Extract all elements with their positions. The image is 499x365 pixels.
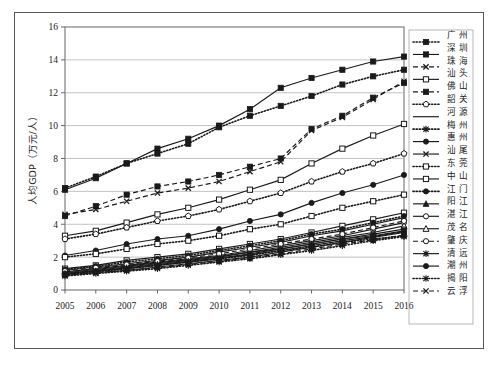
marker-open-circle	[423, 214, 428, 219]
legend-label-char: 阳	[447, 196, 456, 206]
marker-open-square	[186, 205, 191, 210]
legend-label-char: 山	[459, 171, 468, 181]
marker-open-square	[247, 187, 252, 192]
marker-open-square	[423, 164, 428, 169]
legend-item-梅州[interactable]	[413, 126, 439, 133]
legend-label-char: 湛	[447, 209, 456, 219]
legend-label-char: 揭	[447, 272, 456, 283]
y-axis-title: 人均GDP（万元/人）	[27, 111, 38, 205]
svg-text:人均GDP（万元/人）: 人均GDP（万元/人）	[27, 111, 38, 205]
marker-filled-square	[124, 161, 129, 166]
legend-item-惠州[interactable]	[413, 139, 439, 144]
legend-label-char: 惠	[447, 131, 456, 142]
legend-item-云浮[interactable]	[413, 288, 439, 293]
legend-item-汕头[interactable]	[413, 77, 439, 82]
marker-filled-square	[371, 95, 376, 100]
legend-item-肇庆[interactable]	[413, 239, 439, 244]
legend-item-中山[interactable]	[413, 176, 439, 181]
marker-filled-square	[423, 89, 428, 94]
marker-filled-circle	[423, 264, 428, 269]
marker-open-square	[247, 227, 252, 232]
marker-filled-square	[62, 213, 67, 218]
legend-label-char: 州	[459, 120, 468, 130]
y-tick-label: 12	[49, 88, 59, 98]
marker-filled-circle	[216, 227, 221, 232]
marker-filled-square	[247, 113, 252, 118]
marker-open-square	[186, 238, 191, 243]
x-tick-label: 2011	[241, 301, 260, 311]
legend-label-char: 江	[459, 196, 468, 206]
legend-label-char: 江	[447, 184, 456, 194]
marker-filled-square	[216, 172, 221, 177]
marker-open-square	[62, 255, 67, 260]
marker-filled-square	[340, 67, 345, 72]
marker-star	[423, 250, 430, 257]
legend-item-深圳[interactable]	[413, 52, 439, 57]
x-tick-label: 2009	[179, 301, 198, 311]
marker-filled-circle	[186, 233, 191, 238]
legend-item-韶关[interactable]	[413, 101, 439, 107]
marker-filled-square	[247, 164, 252, 169]
legend-label-char: 海	[459, 55, 468, 66]
marker-filled-square	[340, 113, 345, 118]
legend-label-char: 佛	[447, 80, 456, 91]
legend-label-char: 清	[447, 247, 456, 258]
marker-filled-square	[155, 146, 160, 151]
marker-star	[423, 126, 430, 133]
legend-label-char: 茂	[447, 221, 456, 232]
marker-filled-square	[216, 123, 221, 128]
legend-item-汕尾[interactable]	[413, 151, 439, 156]
legend-label-char: 肇	[447, 234, 456, 245]
legend-label-char: 州	[459, 30, 468, 40]
marker-filled-square	[423, 52, 428, 57]
legend-item-茂名[interactable]	[413, 226, 439, 232]
y-tick-label: 10	[49, 121, 59, 131]
legend-label-char: 汕	[447, 145, 456, 155]
marker-open-square	[423, 176, 428, 181]
x-tick-label: 2010	[210, 301, 229, 311]
marker-filled-square	[371, 74, 376, 79]
legend-item-广州[interactable]	[413, 39, 439, 44]
legend-item-揭阳[interactable]	[413, 275, 439, 282]
y-tick-label: 16	[49, 22, 59, 32]
marker-filled-square	[340, 82, 345, 87]
legend-label-char: 门	[459, 183, 468, 194]
legend-label-char: 关	[459, 93, 468, 104]
x-tick-label: 2016	[395, 301, 414, 311]
legend-item-东莞[interactable]	[413, 164, 439, 169]
marker-filled-square	[309, 93, 314, 98]
legend-label-char: 珠	[447, 55, 456, 66]
marker-filled-square	[309, 75, 314, 80]
legend-label-char: 庆	[459, 234, 468, 245]
x-tick-label: 2007	[117, 301, 136, 311]
x-tick-label: 2008	[148, 301, 167, 311]
marker-filled-circle	[401, 172, 406, 177]
legend-label-char: 尾	[459, 145, 468, 155]
legend-label-char: 云	[447, 286, 456, 296]
legend-label-char: 东	[447, 157, 456, 168]
legend-item-江门[interactable]	[413, 189, 439, 194]
marker-filled-circle	[278, 212, 283, 217]
legend-label-char: 源	[459, 107, 468, 117]
legend-label-char: 河	[447, 106, 456, 117]
legend-item-清远[interactable]	[413, 250, 439, 257]
legend-label-char: 浮	[459, 285, 468, 296]
marker-open-square	[340, 146, 345, 151]
legend-label-char: 州	[459, 260, 468, 270]
legend-item-湛江[interactable]	[413, 214, 439, 219]
legend-label-char: 州	[459, 132, 468, 142]
legend-item-阳江[interactable]	[413, 201, 439, 207]
legend-label-char: 圳	[459, 43, 468, 53]
marker-filled-circle	[340, 190, 345, 195]
legend-item-珠海[interactable]	[413, 64, 439, 69]
marker-open-square	[124, 246, 129, 251]
marker-filled-circle	[371, 182, 376, 187]
legend-label-char: 江	[459, 209, 468, 219]
y-tick-label: 4	[53, 220, 58, 230]
marker-open-square	[309, 161, 314, 166]
x-tick-label: 2005	[56, 301, 75, 311]
legend-item-佛山[interactable]	[413, 89, 439, 94]
legend-label-char: 头	[459, 68, 468, 78]
legend-item-潮州[interactable]	[413, 264, 439, 269]
marker-open-square	[401, 192, 406, 197]
